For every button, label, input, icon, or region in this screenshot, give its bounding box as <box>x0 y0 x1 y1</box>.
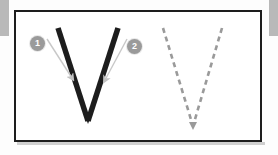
practice-frame <box>14 10 262 142</box>
stroke-badge-1[interactable]: 1 <box>30 36 45 51</box>
worksheet-page: 1 2 <box>0 0 278 155</box>
stroke-badge-2[interactable]: 2 <box>127 39 142 54</box>
frame-drop-shadow <box>17 142 265 145</box>
